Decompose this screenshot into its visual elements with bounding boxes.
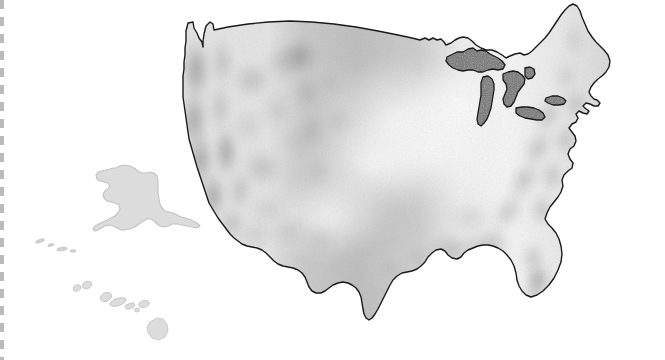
map-figure xyxy=(0,0,665,360)
us-relief-map xyxy=(0,0,665,360)
